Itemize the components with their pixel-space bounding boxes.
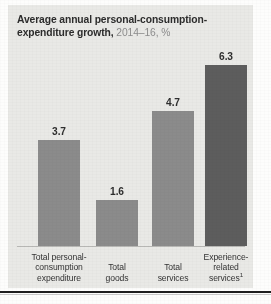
bar-value-total-services: 4.7: [152, 97, 194, 108]
bar-total-goods[interactable]: [96, 200, 138, 246]
category-label-line: expenditure: [28, 273, 90, 283]
bar-experience-related-services[interactable]: [205, 65, 247, 246]
category-label-line: Experience-: [195, 252, 257, 262]
bar-total-services[interactable]: [152, 111, 194, 246]
category-label-line: goods: [86, 273, 148, 283]
bar-value-total-pce: 3.7: [38, 126, 80, 137]
plot-area: 3.7 1.6 4.7 6.3 Total personal- cons: [8, 5, 253, 288]
bottom-divider: [0, 291, 271, 293]
category-label-total-pce: Total personal- consumption expenditure: [28, 252, 90, 283]
bar-value-experience-related-services: 6.3: [205, 51, 247, 62]
category-label-line: services: [209, 273, 240, 283]
bar-value-total-goods: 1.6: [96, 186, 138, 197]
footnote-marker: 1: [240, 271, 243, 278]
category-label-line: Total personal-: [28, 252, 90, 262]
category-label-line: consumption: [28, 262, 90, 272]
axis-baseline: [17, 246, 245, 247]
category-label-line: Total: [86, 262, 148, 272]
chart-card: Average annual personal-consumption-expe…: [8, 5, 253, 288]
category-label-experience-related-services: Experience- related services1: [195, 252, 257, 283]
chart-screenshot: Average annual personal-consumption-expe…: [0, 0, 271, 304]
bar-total-pce[interactable]: [38, 140, 80, 246]
bottom-divider-shadow: [0, 294, 271, 295]
category-label-line-with-footnote: services1: [195, 273, 257, 283]
category-label-line: related: [195, 262, 257, 272]
category-label-total-goods: Total goods: [86, 262, 148, 283]
